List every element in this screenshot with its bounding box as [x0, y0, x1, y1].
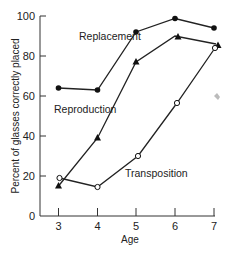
y-tick-0: 0 [29, 210, 35, 222]
point-transposition-5 [135, 153, 140, 158]
y-tick-60: 60 [23, 90, 35, 102]
x-tick-labels: 3 4 5 6 7 [55, 220, 217, 232]
point-reproduction-5 [133, 58, 140, 65]
y-ticks [40, 16, 46, 176]
x-tick-6: 6 [172, 220, 178, 232]
point-transposition-6 [174, 100, 179, 105]
point-transposition-4 [95, 184, 100, 189]
x-tick-7: 7 [211, 220, 217, 232]
y-tick-20: 20 [23, 170, 35, 182]
point-replacement-7 [211, 25, 217, 31]
point-replacement-6 [172, 16, 178, 22]
x-ticks [59, 208, 215, 216]
point-replacement-4 [95, 87, 101, 93]
label-reproduction: Reproduction [54, 103, 117, 115]
y-tick-80: 80 [23, 50, 35, 62]
y-tick-40: 40 [23, 130, 35, 142]
label-transposition: Transposition [125, 167, 188, 179]
y-axis-title: Percent of glasses correctly placed [10, 38, 21, 193]
point-transposition-3 [57, 175, 62, 180]
x-tick-4: 4 [94, 220, 100, 232]
x-tick-3: 3 [55, 220, 61, 232]
point-replacement-3 [56, 85, 62, 91]
label-replacement: Replacement [79, 30, 141, 42]
y-tick-100: 100 [17, 10, 35, 22]
line-chart: 100 80 60 40 20 0 3 4 5 6 7 Age Percent … [0, 0, 231, 259]
x-axis-title: Age [121, 234, 139, 245]
x-tick-5: 5 [133, 220, 139, 232]
point-reproduction-4 [94, 134, 101, 141]
point-transposition-7 [212, 45, 217, 50]
smudge-mark [214, 93, 220, 100]
